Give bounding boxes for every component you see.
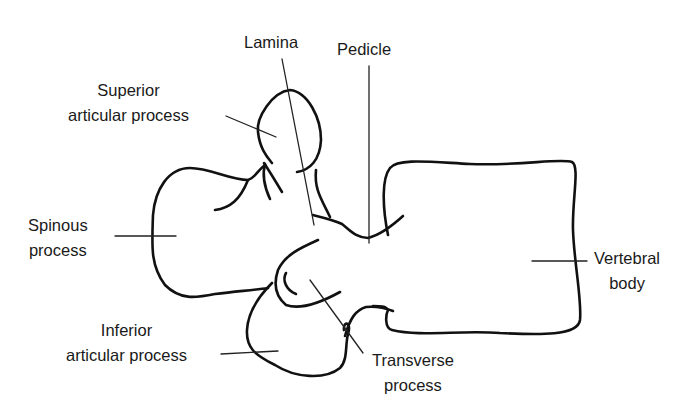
- label-lamina: Lamina: [244, 30, 298, 55]
- pedicle-upper-outline: [313, 215, 403, 238]
- spinous-process-outline: [152, 165, 268, 297]
- label-transverse-line-2: process: [372, 373, 454, 398]
- lamina-outline: [316, 170, 330, 217]
- label-transverse-line-1: Transverse: [372, 348, 454, 373]
- lamina-leader-line: [282, 59, 314, 225]
- superior-articular-process-outline: [258, 90, 321, 172]
- transverse-leader-line: [310, 280, 363, 353]
- vertebral-body-outline: [373, 161, 580, 334]
- label-inferior-articular-process: Inferior articular process: [66, 318, 187, 368]
- label-pedicle-line-1: Pedicle: [337, 37, 391, 62]
- label-pedicle: Pedicle: [337, 37, 391, 62]
- inferior-articular-process-outline: [247, 283, 349, 376]
- label-transverse-process: Transverse process: [372, 348, 454, 398]
- label-superior-articular-process: Superior articular process: [68, 78, 189, 128]
- spinous-inner-curve: [215, 180, 248, 210]
- label-vertebral-body: Vertebral body: [594, 246, 660, 296]
- label-vertebral-line-1: Vertebral: [594, 246, 660, 271]
- label-spinous-line-2: process: [28, 238, 88, 263]
- label-lamina-line-1: Lamina: [244, 30, 298, 55]
- transverse-process-inner-curve: [284, 273, 296, 294]
- label-inferior-line-1: Inferior: [66, 318, 187, 343]
- superior-articular-leader-line: [226, 116, 276, 137]
- label-vertebral-line-2: body: [594, 271, 660, 296]
- label-inferior-line-2: articular process: [66, 343, 187, 368]
- label-spinous-line-1: Spinous: [28, 213, 88, 238]
- label-spinous-process: Spinous process: [28, 213, 88, 263]
- label-superior-line-1: Superior: [68, 78, 189, 103]
- label-superior-line-2: articular process: [68, 103, 189, 128]
- inferior-articular-leader-line: [221, 351, 278, 354]
